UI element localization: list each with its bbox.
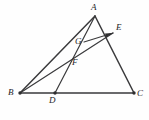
- point-label-F: F: [72, 58, 78, 67]
- vertex-dot-B: [18, 91, 21, 94]
- point-label-A: A: [91, 3, 97, 12]
- vertex-dot-C: [132, 91, 135, 94]
- point-label-B: B: [8, 88, 14, 97]
- cevian-BE: [20, 33, 113, 93]
- side-AC: [95, 16, 134, 93]
- cevian-AD: [55, 16, 95, 93]
- point-label-G: G: [75, 37, 82, 46]
- geometry-figure: A B C D E F G: [0, 0, 149, 120]
- side-AB: [20, 16, 95, 93]
- point-label-D: D: [49, 96, 56, 105]
- point-label-E: E: [116, 23, 122, 32]
- arrow-G-to-E-head: [105, 33, 113, 37]
- point-label-C: C: [137, 89, 143, 98]
